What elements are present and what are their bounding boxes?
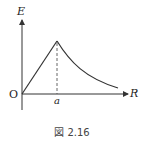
decay-curve — [57, 41, 118, 88]
y-axis-label: E — [17, 6, 25, 17]
figure-caption: 図 2.16 — [0, 124, 144, 139]
plot-svg — [0, 0, 144, 120]
rise-line — [22, 41, 57, 94]
origin-label: O — [9, 89, 18, 100]
figure-graph: E O a R — [0, 0, 144, 120]
tick-a-label: a — [54, 96, 60, 106]
x-axis-label: R — [130, 88, 138, 99]
